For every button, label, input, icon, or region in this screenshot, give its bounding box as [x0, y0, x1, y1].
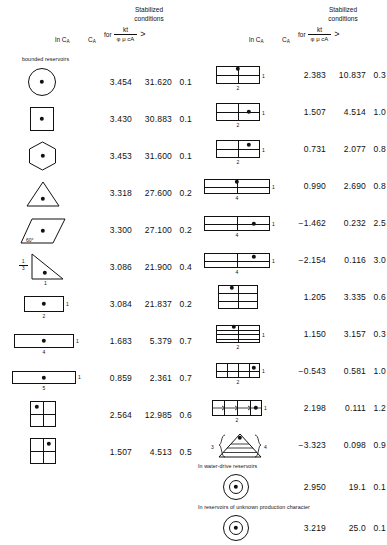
ca-column-header: CA — [88, 36, 96, 44]
water-drive-caption: In water-drive reservoirs — [198, 463, 387, 469]
row-values: 1.205 3.335 0.6 — [290, 292, 386, 302]
table-row: 2 1 0.731 2.077 0.8 — [194, 130, 387, 167]
figure-rect4-halves-top-center: 4 1 — [194, 167, 290, 204]
figure-circle-ring-unknown — [194, 511, 290, 545]
table-row: 3.454 31.620 0.1 — [0, 63, 193, 100]
row-values: 3.084 21.837 0.2 — [96, 299, 192, 309]
table-row: 2 1 1.150 3.157 0.3 — [194, 315, 387, 352]
width-label: 2 — [237, 344, 240, 350]
table-row: 4 1 0.990 2.690 0.8 — [194, 167, 387, 204]
figure-rect4-halves-upper-right: 4 1 — [194, 241, 290, 278]
figure-grid-1x3-top-left — [194, 278, 290, 315]
row-values: −2.154 0.116 3.0 — [290, 255, 386, 265]
row-values: 3.086 21.900 0.4 — [96, 262, 192, 272]
row-values: −0.543 0.581 1.0 — [290, 366, 386, 376]
figure-parallelogram-60: 60° — [0, 211, 96, 248]
row-values: 3.454 31.620 0.1 — [96, 77, 192, 87]
figure-rect2-halves-top-center: 2 1 — [194, 56, 290, 93]
table-row: 4 1 1.683 5.379 0.7 — [0, 322, 193, 359]
row-values: 3.453 31.600 0.1 — [96, 151, 192, 161]
figure-grid-2x4-top-left: 2 1 — [194, 315, 290, 352]
figure-quad-square-top-right — [0, 433, 96, 470]
table-row: 2 1 −0.543 0.581 1.0 — [194, 352, 387, 389]
figure-grid-2x2-right: 2 1 — [194, 352, 290, 389]
unknown-character-caption: In reservoirs of unknown production char… — [198, 504, 387, 510]
row-values: 3.430 30.883 0.1 — [96, 114, 192, 124]
table-row: 1 3 1 3.086 21.900 0.4 — [0, 248, 193, 285]
table-row: 3.219 25.0 0.1 — [194, 511, 387, 545]
ln-ca-column-header: ln CA — [249, 36, 264, 44]
height-label: 1 — [262, 368, 265, 374]
figure-right-triangle: 1 3 1 — [0, 248, 96, 285]
table-row: 5 1 0.859 2.361 0.7 — [0, 359, 193, 396]
table-row: 2 1 1.507 4.514 1.0 — [194, 93, 387, 130]
row-values: 3.300 27.100 0.2 — [96, 225, 192, 235]
left-column: Stabilized conditions for kt φ μ cA > ln… — [0, 0, 193, 501]
table-row: 4 1 −2.154 0.116 3.0 — [194, 241, 387, 278]
width-label: 4 — [236, 232, 239, 238]
row-values: 1.507 4.514 1.0 — [290, 107, 386, 117]
height-label: 1 — [272, 184, 275, 190]
width-label: 4 — [43, 349, 46, 355]
table-row: 1.205 3.335 0.6 — [194, 278, 387, 315]
width-label: 2 — [237, 122, 240, 128]
row-values: 1.150 3.157 0.3 — [290, 329, 386, 339]
height-label: 1 — [262, 332, 265, 338]
row-values: 3.318 27.600 0.2 — [96, 188, 192, 198]
height-label: 1 — [66, 301, 69, 307]
figure-rect4-halves-mid-right: 4 1 — [194, 204, 290, 241]
row-values: −3.323 0.098 0.9 — [290, 440, 386, 450]
table-row: 3.430 30.883 0.1 — [0, 100, 193, 137]
ca-column-header: CA — [282, 36, 290, 44]
width-label: 4 — [236, 195, 239, 201]
table-row: 2.564 12.985 0.6 — [0, 396, 193, 433]
figure-rect2-halves-mid-right: 2 1 — [194, 93, 290, 130]
table-row: 60° 3.300 27.100 0.2 — [0, 211, 193, 248]
figure-rect-5x1-center: 5 1 — [0, 359, 96, 396]
figure-circle-ring-water-drive — [194, 470, 290, 504]
figure-quad-square-top-left — [0, 396, 96, 433]
figure-circle-centered — [0, 63, 96, 100]
row-values: 0.859 2.361 0.7 — [96, 373, 192, 383]
greater-than-sign: > — [334, 29, 339, 39]
height-label: 1 — [272, 221, 275, 227]
table-row: 1.507 4.513 0.5 — [0, 433, 193, 470]
table-row: 4 1 −1.462 0.232 2.5 — [194, 204, 387, 241]
table-row: 3 4 −3.323 0.098 0.9 — [194, 426, 387, 463]
left-brace-label: 3 — [211, 444, 214, 450]
width-label: 2 — [237, 85, 240, 91]
height-label: 1 — [76, 338, 79, 344]
table-row: 2.950 19.1 0.1 — [194, 470, 387, 504]
table-row: 3.453 31.600 0.1 — [0, 137, 193, 174]
row-values: 0.990 2.690 0.8 — [290, 181, 386, 191]
width-label: 5 — [43, 385, 46, 391]
figure-rect2-halves-upper-right: 2 1 — [194, 130, 290, 167]
right-column-header: Stabilized conditions for kt φ μ cA > ln… — [194, 0, 387, 56]
row-values: 0.731 2.077 0.8 — [290, 144, 386, 154]
stabilized-formula: for kt φ μ cA > — [104, 27, 146, 42]
width-label: 4 — [236, 269, 239, 275]
figure-hexagon-centered — [0, 137, 96, 174]
stabilized-conditions-label: Stabilized conditions — [110, 6, 188, 23]
ln-ca-column-header: ln CA — [55, 36, 70, 44]
row-values: 1.683 5.379 0.7 — [96, 336, 192, 346]
table-row: 3.318 27.600 0.2 — [0, 174, 193, 211]
stabilized-conditions-label: Stabilized conditions — [304, 6, 382, 23]
width-label: 2 — [237, 159, 240, 165]
kt-over-phi-mu-c-a-fraction: kt φ μ cA — [114, 27, 138, 42]
table-row: 2 1 3.084 21.837 0.2 — [0, 285, 193, 322]
left-column-header: Stabilized conditions for kt φ μ cA > ln… — [0, 0, 193, 56]
row-values: 1.507 4.513 0.5 — [96, 447, 192, 457]
bounded-reservoirs-caption: bounded reservoirs — [22, 56, 193, 62]
triangle-height-fraction: 1 3 — [19, 260, 28, 271]
height-label: 1 — [262, 110, 265, 116]
figure-rect-2x1-center: 2 1 — [0, 285, 96, 322]
height-label: 1 — [78, 374, 81, 380]
row-values: 2.383 10.837 0.3 — [290, 70, 386, 80]
height-label: 1 — [272, 258, 275, 264]
table-row: 2 1 2.198 0.111 1.2 — [194, 389, 387, 426]
height-label: 1 — [262, 73, 265, 79]
row-values: 2.950 19.1 0.1 — [290, 482, 386, 492]
row-values: 3.219 25.0 0.1 — [290, 523, 386, 533]
